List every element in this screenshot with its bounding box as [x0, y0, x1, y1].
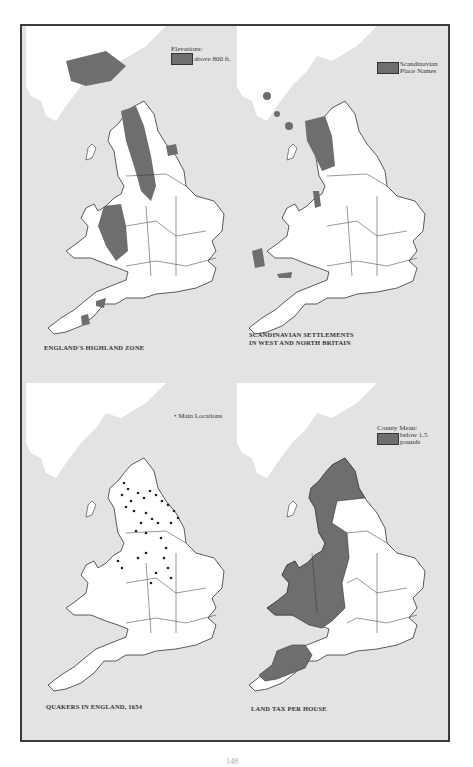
dot-icon: • — [174, 412, 176, 420]
legend-swatch — [171, 53, 193, 65]
map-scandinavian-settlements — [237, 26, 450, 383]
map-frame: Elevations: above 800 ft. ENGLAND'S HIGH… — [20, 24, 450, 742]
map-caption: LAND TAX PER HOUSE — [251, 705, 327, 713]
caption-line: QUAKERS IN ENGLAND, 1654 — [46, 703, 142, 711]
panel-land-tax: County Mean: below 1.5 pounds LAND TAX P… — [237, 383, 450, 740]
caption-line: ENGLAND'S HIGHLAND ZONE — [44, 344, 144, 352]
panel-highland-zone: Elevations: above 800 ft. ENGLAND'S HIGH… — [26, 26, 239, 383]
legend-label: pounds — [400, 439, 428, 446]
caption-line: IN WEST AND NORTH BRITAIN — [249, 339, 354, 347]
legend-title: Elevations: — [171, 46, 231, 53]
legend-swatch — [377, 433, 399, 445]
legend-swatch — [377, 62, 399, 74]
map-quakers — [26, 383, 239, 740]
legend-main-locations: • Main Locations — [174, 413, 222, 420]
caption-line: LAND TAX PER HOUSE — [251, 705, 327, 713]
map-caption: QUAKERS IN ENGLAND, 1654 — [46, 703, 142, 711]
panel-quakers: • Main Locations QUAKERS IN ENGLAND, 165… — [26, 383, 239, 740]
map-caption: SCANDINAVIAN SETTLEMENTS IN WEST AND NOR… — [249, 331, 354, 347]
legend-scandinavian: Scandinavian Place Names — [377, 61, 438, 75]
page-number: 148 — [226, 757, 238, 766]
legend-label: Main Locations — [178, 412, 222, 420]
map-caption: ENGLAND'S HIGHLAND ZONE — [44, 344, 144, 352]
legend-label: above 800 ft. — [194, 56, 231, 63]
legend-county-mean: County Mean: below 1.5 pounds — [377, 425, 428, 446]
map-highland-zone — [26, 26, 239, 383]
caption-line: SCANDINAVIAN SETTLEMENTS — [249, 331, 354, 339]
legend-elevations: Elevations: above 800 ft. — [171, 46, 231, 65]
legend-label: Place Names — [400, 68, 438, 75]
panel-scandinavian-settlements: Scandinavian Place Names SCANDINAVIAN SE… — [237, 26, 450, 383]
